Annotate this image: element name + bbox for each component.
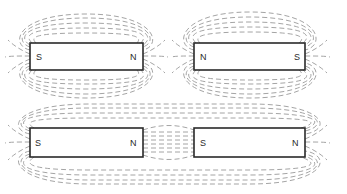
magnet-top-left: S N	[30, 43, 143, 70]
magnetic-field-diagram: S N N S	[0, 0, 347, 194]
pole-label-n: N	[292, 138, 299, 148]
magnet-bottom-left: S N	[30, 128, 143, 157]
pole-label-s: S	[36, 52, 42, 62]
pole-label-s: S	[35, 138, 41, 148]
pole-label-n: N	[130, 52, 137, 62]
pole-label-n: N	[130, 138, 137, 148]
pole-label-s: S	[294, 52, 300, 62]
magnet-top-right: N S	[194, 43, 305, 70]
magnet-bottom-right: S N	[194, 128, 305, 157]
pole-label-s: S	[200, 138, 206, 148]
pole-label-n: N	[200, 52, 207, 62]
